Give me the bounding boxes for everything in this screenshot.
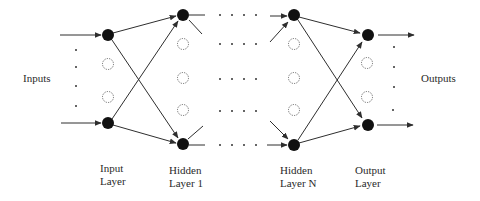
outputs-label: Outputs (421, 72, 456, 84)
hiddenN-node-hidden-3 (289, 105, 300, 116)
output-layer-label-line1: Output (355, 164, 386, 176)
hidden-layer-n-label-line2: Layer N (280, 177, 316, 189)
hidden1-node-hidden-1 (178, 39, 189, 50)
input-ellipsis-dots (75, 49, 77, 107)
hiddenN-node-hidden-1 (289, 39, 300, 50)
neural-network-diagram: Inputs Outputs Input Layer Hidden Layer … (0, 0, 480, 201)
output-arrows (377, 35, 414, 125)
hidden1-node-hidden-2 (178, 73, 189, 84)
hidden-layer-1-nodes (177, 9, 189, 150)
output-node-n (362, 119, 374, 131)
edges-hidden1-to-hiddenN (188, 15, 288, 145)
input-layer-label-line2: Layer (100, 175, 126, 187)
output-node-hidden-1 (362, 58, 373, 69)
input-layer-nodes (102, 29, 114, 129)
edges-hiddenN-to-output (298, 17, 362, 143)
input-layer-label-line1: Input (100, 162, 123, 174)
edges-input-to-hidden1 (112, 16, 178, 143)
output-node-1 (362, 29, 374, 41)
input-arrows (60, 35, 101, 123)
hidden-ellipsis-rows (219, 14, 257, 146)
hidden-layer-1-label-line1: Hidden (169, 164, 202, 176)
input-node-hidden-2 (103, 92, 114, 103)
hiddenN-node-1 (288, 9, 300, 21)
input-node-1 (102, 29, 114, 41)
input-node-hidden-1 (103, 59, 114, 70)
input-node-n (102, 117, 114, 129)
output-layer-label-line2: Layer (355, 177, 381, 189)
hidden-layer-n-label-line1: Hidden (280, 164, 313, 176)
hidden1-node-n (177, 138, 189, 150)
output-ellipsis-dots (392, 46, 395, 111)
hiddenN-node-hidden-2 (289, 73, 300, 84)
hidden-layer-n-nodes (288, 9, 300, 151)
hidden-layer-1-label-line2: Layer 1 (169, 177, 203, 189)
hidden1-node-hidden-3 (178, 105, 189, 116)
output-layer-nodes (362, 29, 375, 131)
inputs-label: Inputs (23, 72, 51, 84)
hiddenN-node-n (288, 139, 300, 151)
output-node-hidden-2 (362, 92, 373, 103)
hidden1-node-1 (177, 9, 189, 21)
